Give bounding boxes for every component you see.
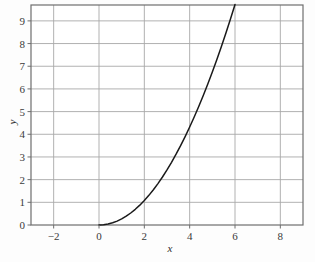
y-axis-title: y xyxy=(6,120,18,125)
x-tick-label: 4 xyxy=(187,230,193,242)
y-tick-label: 6 xyxy=(5,83,25,95)
chart-plot-svg xyxy=(0,0,315,262)
y-tick-label: 5 xyxy=(5,106,25,118)
y-tick-label: 0 xyxy=(5,219,25,231)
y-tick-label: 2 xyxy=(5,174,25,186)
y-tick-label: 7 xyxy=(5,60,25,72)
x-tick-label: 0 xyxy=(96,230,102,242)
y-tick-label: 4 xyxy=(5,128,25,140)
x-tick-label: 2 xyxy=(142,230,148,242)
y-tick-label: 1 xyxy=(5,196,25,208)
x-axis-title: x xyxy=(168,242,173,254)
x-tick-label: −2 xyxy=(48,230,60,242)
y-tick-label: 8 xyxy=(5,38,25,50)
x-tick-label: 8 xyxy=(278,230,284,242)
x-tick-label: 6 xyxy=(232,230,238,242)
y-tick-label: 3 xyxy=(5,151,25,163)
chart-page: −202468 0123456789 x y xyxy=(0,0,315,262)
plot-background xyxy=(31,5,303,225)
y-tick-label: 9 xyxy=(5,15,25,27)
